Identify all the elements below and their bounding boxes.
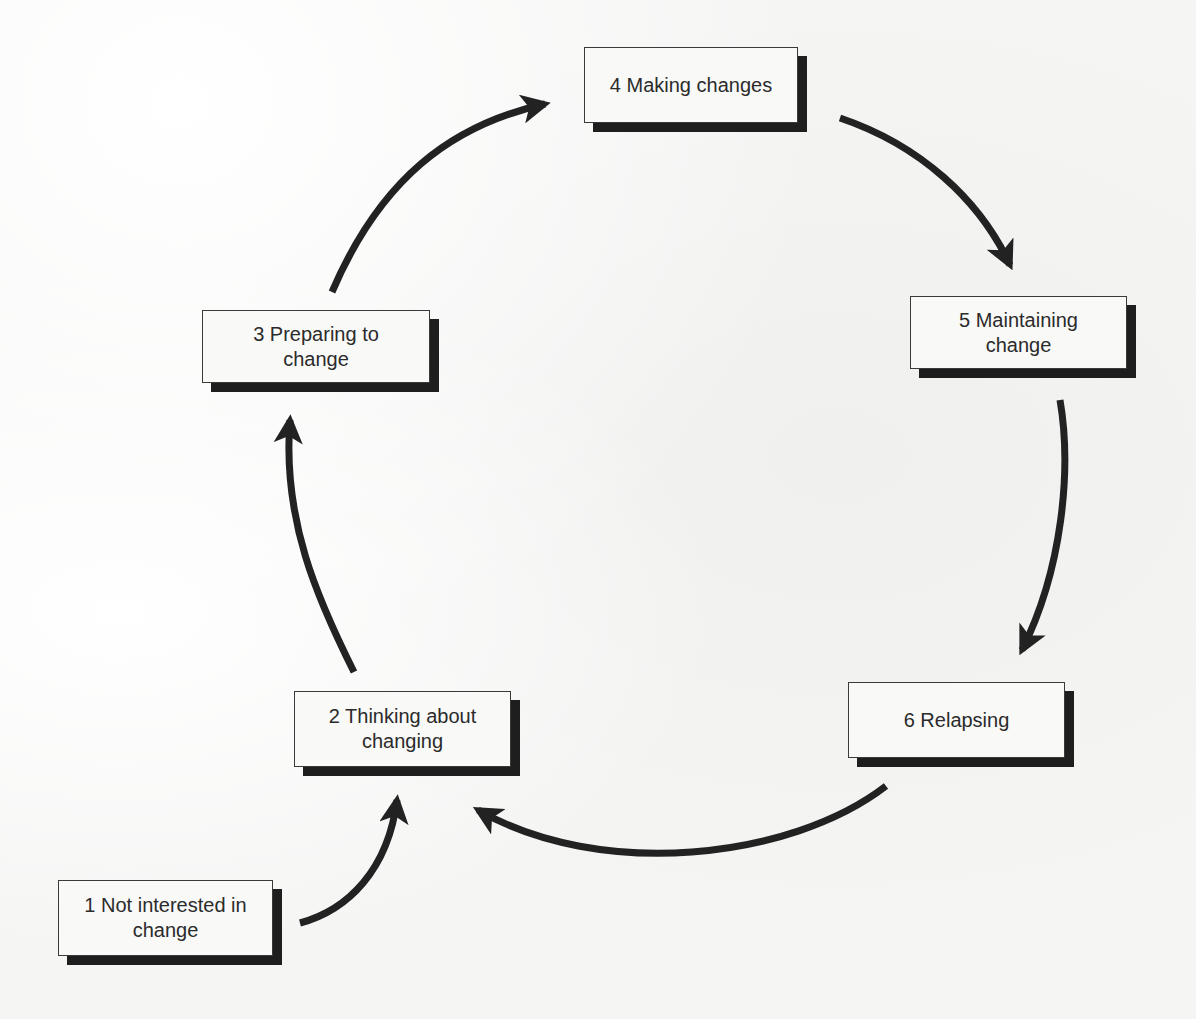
stage-4-making-changes: 4 Making changes: [584, 47, 798, 123]
cycle-arrows: [0, 0, 1196, 1019]
arrow-2-to-3: [289, 420, 354, 672]
stage-1-not-interested-in-change: 1 Not interested in change: [58, 880, 273, 956]
arrow-6-to-2: [478, 786, 886, 853]
stage-label: 5 Maintaining change: [959, 308, 1078, 358]
arrow-5-to-6: [1022, 400, 1065, 650]
stage-5-maintaining-change: 5 Maintaining change: [910, 296, 1127, 369]
stage-label: 2 Thinking about changing: [329, 704, 477, 754]
stage-label: 4 Making changes: [610, 73, 772, 98]
stage-label: 1 Not interested in change: [84, 893, 246, 943]
stage-6-relapsing: 6 Relapsing: [848, 682, 1065, 758]
arrow-4-to-5: [840, 118, 1010, 265]
stage-2-thinking-about-changing: 2 Thinking about changing: [294, 691, 511, 767]
stage-3-preparing-to-change: 3 Preparing to change: [202, 310, 430, 383]
stage-label: 6 Relapsing: [904, 708, 1010, 733]
arrow-1-to-2: [300, 800, 397, 923]
arrow-3-to-4: [332, 104, 545, 292]
stage-label: 3 Preparing to change: [253, 322, 379, 372]
